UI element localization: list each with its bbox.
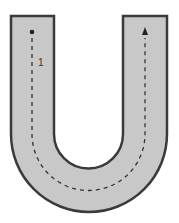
start-dot-icon — [30, 30, 35, 35]
u-track-diagram — [0, 0, 179, 223]
u-track-shape — [11, 16, 167, 212]
segment-label: 1 — [38, 58, 44, 68]
